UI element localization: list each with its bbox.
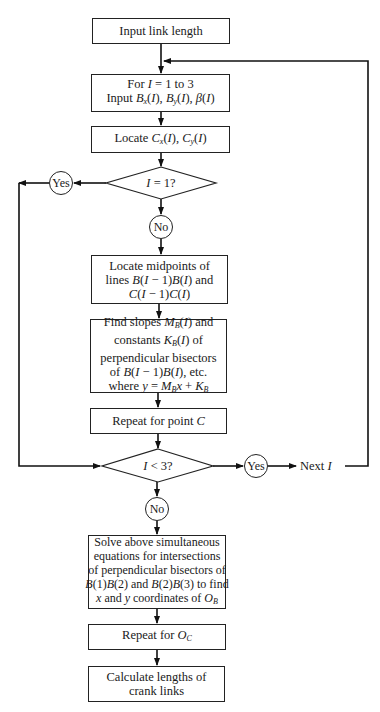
node-text: Solve above simultaneous [94, 535, 219, 549]
process-for-loop-input: For I = 1 to 3 Input Bx(I), By(I), β(I) [91, 74, 230, 112]
node-text: For I = 1 to 3 [127, 77, 193, 91]
node-text: where y = MBx + KB [109, 379, 209, 397]
connector-no-2: No [145, 497, 169, 521]
process-repeat-oc: Repeat for OC [88, 624, 226, 650]
node-text: of perpendicular bisectors of [88, 563, 226, 577]
node-text: Calculate lengths of [107, 670, 207, 684]
node-text: of B(I − 1)B(I), etc. [110, 365, 207, 379]
process-repeat-point-c: Repeat for point C [90, 408, 227, 434]
node-text: x and y coordinates of OB [96, 591, 218, 609]
connector-yes-1: Yes [49, 171, 73, 195]
node-text: equations for intersections [94, 549, 221, 563]
node-text: Input link length [119, 24, 202, 38]
process-locate-midpoints: Locate midpoints of lines B(I − 1)B(I) a… [91, 255, 228, 304]
node-text: Repeat for point C [112, 414, 205, 428]
process-input-link-length: Input link length [92, 18, 230, 44]
node-text: perpendicular bisectors [100, 351, 216, 365]
connector-yes-2: Yes [244, 454, 268, 478]
node-text: crank links [129, 684, 184, 698]
node-text: Find slopes MB(I) and [104, 315, 213, 333]
decision-label-i-equals-1: I = 1? [131, 176, 191, 191]
node-text: constants KB(I) of [114, 333, 203, 351]
node-text: Input Bx(I), By(I), β(I) [106, 91, 214, 109]
process-find-slopes: Find slopes MB(I) and constants KB(I) of… [90, 319, 227, 393]
node-text: C(I − 1)C(I) [129, 287, 190, 301]
connector-no-1: No [149, 215, 173, 239]
node-text: Locate midpoints of [109, 259, 210, 273]
node-text: Repeat for OC [122, 628, 192, 646]
process-calculate-crank-lengths: Calculate lengths of crank links [88, 666, 225, 702]
node-text: lines B(I − 1)B(I) and [106, 273, 214, 287]
node-text: B(1)B(2) and B(2)B(3) to find [85, 577, 228, 591]
process-locate-c: Locate Cx(I), Cy(I) [91, 126, 230, 153]
next-i-label: Next I [300, 459, 332, 474]
process-solve-simultaneous: Solve above simultaneous equations for i… [88, 535, 226, 609]
decision-label-i-less-3: I < 3? [128, 459, 188, 474]
node-text: Locate Cx(I), Cy(I) [114, 131, 206, 149]
